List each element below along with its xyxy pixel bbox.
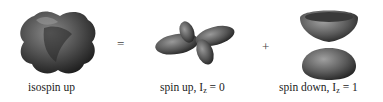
spin-down-label: spin down, Iz = 1 xyxy=(279,81,358,95)
spin-up-shape xyxy=(155,20,237,68)
isospin-up-shape xyxy=(14,6,100,78)
equals-sign: = xyxy=(117,36,124,52)
spin-up-label: spin up, Iz = 0 xyxy=(160,81,225,95)
isospin-up-label: isospin up xyxy=(28,81,75,93)
plus-sign: + xyxy=(262,39,269,55)
spin-down-shape xyxy=(296,8,362,80)
